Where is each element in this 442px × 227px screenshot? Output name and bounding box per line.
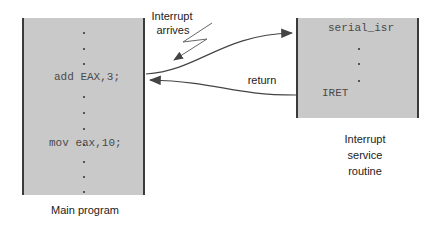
- arrows-layer: [0, 0, 442, 227]
- lightning-bolt-icon: [174, 23, 212, 60]
- return-arrow-icon: [150, 80, 296, 95]
- call-arrow-icon: [146, 33, 292, 74]
